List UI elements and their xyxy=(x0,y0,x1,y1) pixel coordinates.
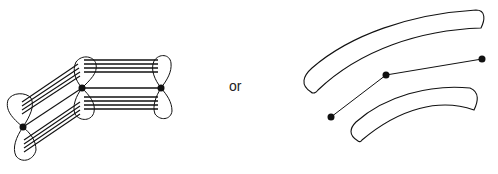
right-figure xyxy=(304,10,484,142)
node-n2 xyxy=(79,85,86,92)
lower-band xyxy=(351,87,477,141)
separator-label: or xyxy=(229,78,241,94)
node-n3 xyxy=(158,85,165,92)
node-m3 xyxy=(479,56,486,63)
polyline-path xyxy=(331,59,482,117)
lobe-n3-bottom xyxy=(154,88,172,119)
lobe-n1-top xyxy=(7,94,32,127)
node-m1 xyxy=(328,114,335,121)
left-figure xyxy=(0,0,498,174)
node-m2 xyxy=(383,72,390,79)
upper-band xyxy=(304,10,484,93)
node-n1 xyxy=(20,124,27,131)
